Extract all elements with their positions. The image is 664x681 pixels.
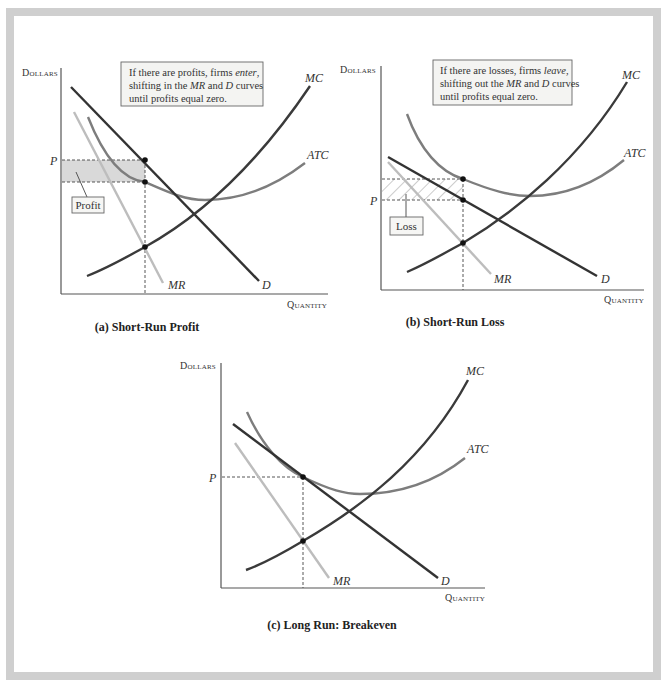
- demand-curve: [233, 424, 438, 578]
- loss-area: [382, 179, 463, 200]
- demand-curve: [388, 157, 597, 276]
- price-point: [460, 197, 466, 203]
- atc-label: ATC: [306, 148, 330, 162]
- x-axis-label: Quantity: [604, 294, 644, 305]
- x-axis-label: Quantity: [287, 299, 327, 310]
- mr-label: MR: [493, 272, 512, 286]
- y-axis-label: Dollars: [22, 67, 58, 78]
- demand-label: D: [261, 278, 271, 292]
- mc-label: MC: [304, 71, 324, 85]
- panel-c-long-run-breakeven: Dollars Quantity P MC ATC MR D (c) Long …: [180, 360, 490, 632]
- x-axis-label: Quantity: [445, 592, 485, 603]
- mc-mr-point: [300, 538, 306, 544]
- demand-label: D: [440, 574, 450, 588]
- atc-label: ATC: [623, 146, 647, 160]
- monopolistic-competition-figure: Profit If there are profits, firms enter…: [0, 0, 664, 681]
- profit-label: Profit: [75, 199, 100, 211]
- price-label: P: [208, 471, 217, 485]
- demand-label: D: [600, 272, 610, 286]
- atc-point: [142, 179, 148, 185]
- mc-mr-point: [142, 244, 148, 250]
- mr-label: MR: [332, 574, 351, 588]
- mc-mr-point: [460, 240, 466, 246]
- panel-b-short-run-loss: Loss If there are losses, firms leave, s…: [340, 60, 647, 329]
- caption-b: (b) Short-Run Loss: [406, 315, 505, 329]
- atc-curve: [88, 117, 305, 200]
- demand-curve: [71, 87, 259, 281]
- atc-point: [460, 176, 466, 182]
- loss-label: Loss: [396, 220, 417, 232]
- price-label: P: [49, 154, 58, 168]
- atc-curve: [247, 412, 465, 494]
- mc-label: MC: [465, 364, 485, 378]
- price-point: [142, 157, 148, 163]
- caption-a: (a) Short-Run Profit: [95, 320, 199, 334]
- mc-curve: [246, 380, 468, 570]
- breakeven-point: [300, 474, 306, 480]
- atc-label: ATC: [466, 442, 490, 456]
- panel-a-short-run-profit: Profit If there are profits, firms enter…: [22, 62, 330, 334]
- price-label: P: [369, 194, 378, 208]
- mc-curve: [407, 82, 627, 272]
- caption-c: (c) Long Run: Breakeven: [267, 618, 397, 632]
- mc-label: MC: [621, 68, 641, 82]
- mr-label: MR: [167, 278, 186, 292]
- y-axis-label: Dollars: [180, 360, 216, 371]
- y-axis-label: Dollars: [340, 64, 376, 75]
